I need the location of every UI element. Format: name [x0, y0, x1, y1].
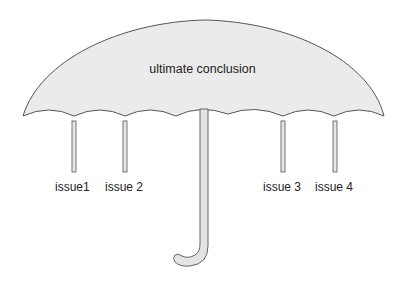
umbrella-handle	[173, 109, 200, 262]
issue-label-2: issue 2	[105, 180, 143, 194]
issue-rib-2	[123, 121, 127, 172]
issue-rib-4	[333, 121, 337, 172]
issue-rib-3	[281, 121, 285, 172]
issue-label-3: issue 3	[263, 180, 301, 194]
umbrella-pole	[174, 109, 209, 266]
issue-label-1: issue1	[55, 180, 90, 194]
canopy-label: ultimate conclusion	[0, 62, 405, 76]
umbrella-diagram	[0, 0, 405, 284]
issue-label-4: issue 4	[315, 180, 353, 194]
issue-rib-1	[72, 121, 76, 172]
